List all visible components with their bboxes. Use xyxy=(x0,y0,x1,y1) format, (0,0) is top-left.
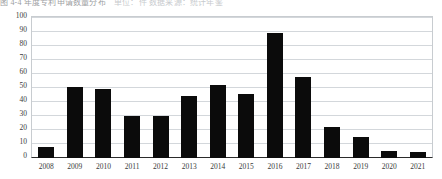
bar-slot xyxy=(146,17,175,158)
y-tick-label: 30 xyxy=(1,110,27,118)
bar-slot xyxy=(61,17,90,158)
bar-2018[interactable] xyxy=(324,127,340,158)
bar-series xyxy=(32,17,432,158)
bar-slot xyxy=(89,17,118,158)
x-tick-label-2019: 2019 xyxy=(346,162,375,171)
bar-slot xyxy=(346,17,375,158)
x-tick-label-2013: 2013 xyxy=(175,162,204,171)
bar-2008[interactable] xyxy=(38,147,54,158)
bar-2015[interactable] xyxy=(238,94,254,158)
x-tick-label-2014: 2014 xyxy=(203,162,232,171)
bar-slot xyxy=(175,17,204,158)
bar-slot xyxy=(318,17,347,158)
x-tick-label-2008: 2008 xyxy=(32,162,61,171)
figure-caption: 图 4-4 年度专利申请数量分布 单位：件 数据来源：统计年鉴 xyxy=(0,0,442,6)
x-tick-label-2009: 2009 xyxy=(61,162,90,171)
x-tick-label-2020: 2020 xyxy=(375,162,404,171)
y-tick-label: 60 xyxy=(1,68,27,76)
bar-2020[interactable] xyxy=(381,151,397,158)
bar-2013[interactable] xyxy=(181,96,197,158)
bar-slot xyxy=(404,17,433,158)
x-tick-label-2011: 2011 xyxy=(118,162,147,171)
x-tick-label-2016: 2016 xyxy=(261,162,290,171)
bar-2016[interactable] xyxy=(267,33,283,158)
bar-slot xyxy=(261,17,290,158)
y-tick-label: 70 xyxy=(1,54,27,62)
figure-caption-sub: 单位：件 数据来源：统计年鉴 xyxy=(114,0,223,6)
y-tick-label: 80 xyxy=(1,40,27,48)
bar-slot xyxy=(232,17,261,158)
bar-2019[interactable] xyxy=(353,137,369,158)
y-tick-label: 50 xyxy=(1,82,27,90)
figure-caption-main: 图 4-4 年度专利申请数量分布 xyxy=(0,0,106,6)
bar-2017[interactable] xyxy=(295,77,311,158)
bar-2011[interactable] xyxy=(124,116,140,158)
bar-slot xyxy=(118,17,147,158)
x-tick-label-2015: 2015 xyxy=(232,162,261,171)
bar-chart: 0102030405060708090100 20082009201020112… xyxy=(0,9,442,179)
bar-2012[interactable] xyxy=(153,116,169,158)
y-tick-label: 40 xyxy=(1,96,27,104)
y-tick-label: 10 xyxy=(1,138,27,146)
x-tick-label-2017: 2017 xyxy=(289,162,318,171)
x-tick-label-2021: 2021 xyxy=(404,162,433,171)
y-tick-label: 90 xyxy=(1,26,27,34)
bar-slot xyxy=(203,17,232,158)
x-tick-label-2018: 2018 xyxy=(318,162,347,171)
bar-slot xyxy=(32,17,61,158)
bar-slot xyxy=(289,17,318,158)
y-tick-label: 0 xyxy=(1,152,27,160)
bar-2009[interactable] xyxy=(67,87,83,158)
y-tick-label: 20 xyxy=(1,124,27,132)
x-tick-label-2012: 2012 xyxy=(146,162,175,171)
bar-slot xyxy=(375,17,404,158)
bar-2021[interactable] xyxy=(410,152,426,158)
x-tick-label-2010: 2010 xyxy=(89,162,118,171)
y-tick-label: 100 xyxy=(1,12,27,20)
bar-2010[interactable] xyxy=(95,89,111,158)
bar-2014[interactable] xyxy=(210,85,226,158)
x-axis: 2008200920102011201220132014201520162017… xyxy=(32,162,432,171)
